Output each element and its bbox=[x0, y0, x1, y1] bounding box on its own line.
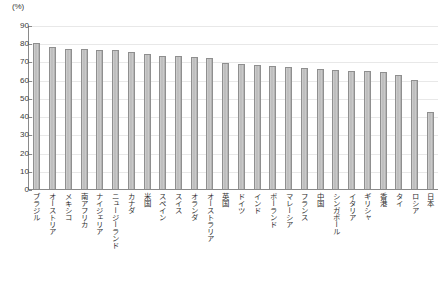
bar bbox=[269, 66, 276, 189]
category-slot: 米国 bbox=[138, 192, 154, 282]
bar-slot bbox=[123, 26, 139, 189]
category-slot: インド bbox=[249, 192, 265, 282]
x-axis-category-label: オランダ bbox=[190, 192, 198, 220]
y-axis-tick-label: 70 bbox=[9, 58, 29, 66]
x-axis-category-label: イタリア bbox=[347, 192, 355, 220]
x-axis-category-label: 香港 bbox=[379, 192, 387, 206]
bar-chart: (%) 0102030405060708090 ブラジルオーストリアメキシコ南ア… bbox=[0, 0, 442, 284]
x-axis-category-label: シンガポール bbox=[332, 192, 340, 234]
category-slot: ブラジル bbox=[28, 192, 44, 282]
category-slot: ポーランド bbox=[264, 192, 280, 282]
bar-slot bbox=[328, 26, 344, 189]
x-axis-category-label: インド bbox=[253, 192, 261, 213]
bar-slot bbox=[344, 26, 360, 189]
category-slot: カナダ bbox=[123, 192, 139, 282]
x-axis-category-label: 日本 bbox=[426, 192, 434, 206]
bar-slot bbox=[265, 26, 281, 189]
bar-slot bbox=[249, 26, 265, 189]
category-slot: シンガポール bbox=[328, 192, 344, 282]
bar-slot bbox=[375, 26, 391, 189]
bar-series bbox=[29, 26, 438, 189]
y-axis-tick-label: 30 bbox=[9, 131, 29, 139]
bar-slot bbox=[218, 26, 234, 189]
bar-slot bbox=[391, 26, 407, 189]
x-axis-category-label: ロシア bbox=[410, 192, 418, 213]
bar bbox=[144, 54, 151, 189]
x-axis-category-label: ポーランド bbox=[268, 192, 276, 227]
category-slot: 英国 bbox=[217, 192, 233, 282]
x-axis-category-label: スイス bbox=[174, 192, 182, 213]
bar bbox=[254, 65, 261, 189]
x-axis-category-label: スペイン bbox=[158, 192, 166, 220]
bar bbox=[395, 75, 402, 189]
y-axis-tick-label: 20 bbox=[9, 150, 29, 158]
x-axis-category-label: フランス bbox=[300, 192, 308, 220]
category-slot: タイ bbox=[391, 192, 407, 282]
bar bbox=[112, 50, 119, 189]
x-axis-category-label: ニュージーランド bbox=[111, 192, 119, 248]
x-axis-category-label: 中国 bbox=[316, 192, 324, 206]
bar-slot bbox=[281, 26, 297, 189]
bar-slot bbox=[29, 26, 45, 189]
y-axis-tick-label: 80 bbox=[9, 40, 29, 48]
bar-slot bbox=[296, 26, 312, 189]
bar bbox=[222, 63, 229, 189]
bar-slot bbox=[155, 26, 171, 189]
bar bbox=[191, 57, 198, 189]
x-axis-category-label: 英国 bbox=[221, 192, 229, 206]
category-slot: スイス bbox=[170, 192, 186, 282]
bar bbox=[380, 72, 387, 189]
bar bbox=[364, 71, 371, 189]
bar-slot bbox=[92, 26, 108, 189]
y-axis-unit-label: (%) bbox=[12, 2, 24, 11]
y-axis-tick-label: 90 bbox=[9, 22, 29, 30]
bar-slot bbox=[108, 26, 124, 189]
category-slot: イタリア bbox=[343, 192, 359, 282]
y-axis-tick-label: 50 bbox=[9, 95, 29, 103]
bar bbox=[49, 47, 56, 189]
plot-area: 0102030405060708090 bbox=[28, 26, 438, 190]
y-axis-tick-label: 60 bbox=[9, 77, 29, 85]
category-slot: ニュージーランド bbox=[107, 192, 123, 282]
bar bbox=[238, 64, 245, 189]
category-slot: フランス bbox=[296, 192, 312, 282]
category-slot: ロシア bbox=[406, 192, 422, 282]
bar bbox=[317, 69, 324, 189]
category-slot: ギリシャ bbox=[359, 192, 375, 282]
category-slot: オーストリア bbox=[44, 192, 60, 282]
bar-slot bbox=[76, 26, 92, 189]
x-axis-category-label: ドイツ bbox=[237, 192, 245, 213]
bar bbox=[411, 80, 418, 189]
bar bbox=[332, 70, 339, 189]
x-axis-category-label: オーストリア bbox=[48, 192, 56, 234]
category-slot: ナイジェリア bbox=[91, 192, 107, 282]
x-axis-category-label: メキシコ bbox=[64, 192, 72, 220]
bar-slot bbox=[359, 26, 375, 189]
bar bbox=[128, 52, 135, 189]
y-axis-tick-label: 10 bbox=[9, 168, 29, 176]
category-slot: オーストラリア bbox=[201, 192, 217, 282]
category-slot: 南アフリカ bbox=[75, 192, 91, 282]
category-slot: ドイツ bbox=[233, 192, 249, 282]
x-axis-category-label: カナダ bbox=[127, 192, 135, 213]
bar-slot bbox=[171, 26, 187, 189]
bar bbox=[285, 67, 292, 189]
bar-slot bbox=[139, 26, 155, 189]
category-slot: 中国 bbox=[312, 192, 328, 282]
bar bbox=[81, 49, 88, 189]
bar bbox=[175, 56, 182, 189]
category-slot: 香港 bbox=[375, 192, 391, 282]
bar-slot bbox=[234, 26, 250, 189]
category-slot: スペイン bbox=[154, 192, 170, 282]
bar bbox=[96, 50, 103, 189]
bar bbox=[33, 43, 40, 189]
x-axis-category-labels: ブラジルオーストリアメキシコ南アフリカナイジェリアニュージーランドカナダ米国スペ… bbox=[28, 192, 438, 282]
bar bbox=[427, 112, 434, 189]
bar-slot bbox=[312, 26, 328, 189]
bar-slot bbox=[186, 26, 202, 189]
category-slot: 日本 bbox=[422, 192, 438, 282]
bar-slot bbox=[60, 26, 76, 189]
x-axis-category-label: ギリシャ bbox=[363, 192, 371, 220]
x-axis-category-label: 南アフリカ bbox=[79, 192, 87, 227]
bar bbox=[65, 49, 72, 189]
